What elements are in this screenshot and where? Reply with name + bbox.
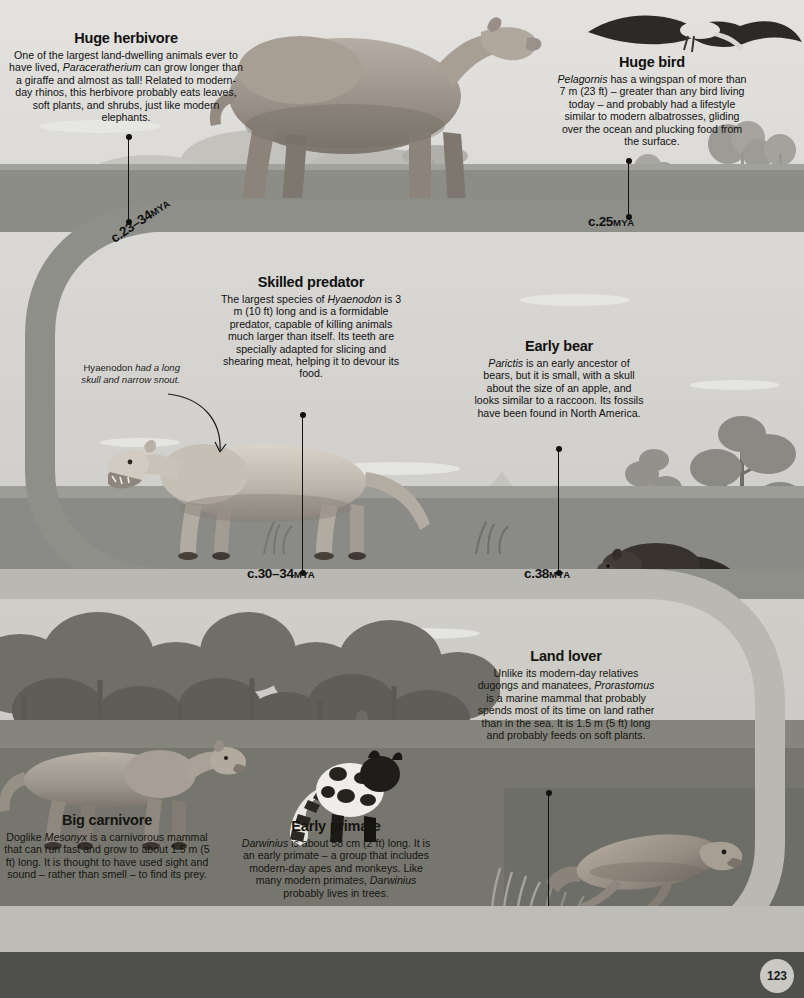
page-number-badge: 123 (760, 959, 794, 993)
callout-title: Early bear (474, 338, 644, 354)
leader-stem (628, 161, 629, 217)
callout-body: Unlike its modern-day relatives dugongs … (476, 667, 656, 741)
callout-body: The largest species of Hyaenodon is 3 m … (216, 293, 406, 380)
leader-stem (558, 449, 559, 573)
callout-body: Parictis is an early ancestor of bears, … (474, 357, 644, 419)
callout-title: Huge herbivore (8, 30, 244, 46)
callout-title: Big carnivore (4, 812, 210, 828)
grass-tuft (470, 520, 514, 554)
callout-early-primate: Early primate Darwinius is about 58 cm (… (240, 818, 432, 899)
footer-strip (0, 952, 804, 998)
annotation-leader-curve (168, 390, 234, 466)
cloud-shape (690, 380, 780, 390)
callout-title: Early primate (240, 818, 432, 834)
callout-huge-bird: Huge bird Pelagornis has a wingspan of m… (556, 54, 748, 147)
animal-paraceratherium (195, 8, 545, 230)
callout-title: Skilled predator (216, 274, 406, 290)
infographic-page: Huge herbivore One of the largest land-d… (0, 0, 804, 998)
callout-big-carnivore: Big carnivore Doglike Mesonyx is a carni… (4, 812, 210, 881)
date-label-skilled-predator: c.30–34MYA (247, 566, 315, 581)
date-label-early-bear: c.38MYA (524, 566, 570, 581)
callout-body: Doglike Mesonyx is a carnivorous mammal … (4, 831, 210, 881)
callout-skilled-predator: Skilled predator The largest species of … (216, 274, 406, 380)
animal-prorastomus (544, 818, 744, 914)
leader-stem (302, 415, 303, 573)
callout-body: Pelagornis has a wingspan of more than 7… (556, 73, 748, 147)
callout-body: Darwinius is about 58 cm (2 ft) long. It… (240, 837, 432, 899)
animal-hyaenodon (108, 420, 438, 560)
annotation-hyaenodon-skull: Hyaenodon had a long skull and narrow sn… (62, 362, 180, 385)
leader-stem (128, 137, 129, 222)
animal-parictis (596, 530, 746, 590)
callout-title: Land lover (476, 648, 656, 664)
callout-land-lover: Land lover Unlike its modern-day relativ… (476, 648, 656, 741)
cloud-shape (520, 294, 630, 306)
callout-huge-herbivore: Huge herbivore One of the largest land-d… (8, 30, 244, 123)
callout-title: Huge bird (556, 54, 748, 70)
callout-early-bear: Early bear Parictis is an early ancestor… (474, 338, 644, 419)
callout-body: One of the largest land-dwelling animals… (8, 49, 244, 123)
date-strip-bottom (0, 906, 804, 952)
date-label-huge-bird: c.25MYA (588, 214, 634, 229)
